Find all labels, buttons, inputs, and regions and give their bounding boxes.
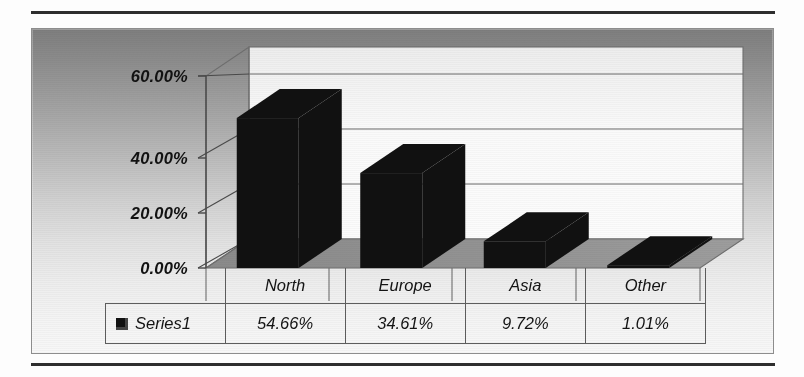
bar-side-face [299, 89, 342, 268]
bar-europe[interactable] [360, 144, 465, 268]
bar-north[interactable] [237, 89, 342, 268]
header-cell-north: North [225, 268, 345, 304]
page-top-rule [31, 11, 775, 14]
y-tick-label-20: 20.00% [78, 204, 188, 223]
data-cell-asia: 9.72% [465, 304, 585, 344]
table-header-row: North Europe Asia Other [106, 268, 706, 304]
header-cell-asia: Asia [465, 268, 585, 304]
bar-front-face [360, 173, 422, 268]
table-data-row: Series1 54.66% 34.61% 9.72% 1.01% [106, 304, 706, 344]
y-tick-label-40: 40.00% [78, 149, 188, 168]
chart-object-frame[interactable]: 60.00% 40.00% 20.00% 0.00% North Europe … [31, 28, 774, 354]
data-cell-other: 1.01% [585, 304, 705, 344]
header-cell-europe: Europe [345, 268, 465, 304]
y-axis-tick-stubs [198, 76, 206, 268]
data-cell-north: 54.66% [225, 304, 345, 344]
bar-front-face [237, 118, 299, 268]
legend-swatch-icon [116, 318, 128, 330]
legend-series-cell[interactable]: Series1 [106, 304, 226, 344]
data-cell-europe: 34.61% [345, 304, 465, 344]
bar-front-face [484, 241, 546, 268]
y-tick-label-60: 60.00% [78, 67, 188, 86]
page-canvas: 60.00% 40.00% 20.00% 0.00% North Europe … [0, 0, 804, 377]
header-cell-other: Other [585, 268, 705, 304]
chart-data-table[interactable]: North Europe Asia Other Series1 54.66% 3… [105, 268, 706, 377]
header-corner-cell [106, 268, 226, 304]
legend-series-label: Series1 [135, 314, 191, 332]
